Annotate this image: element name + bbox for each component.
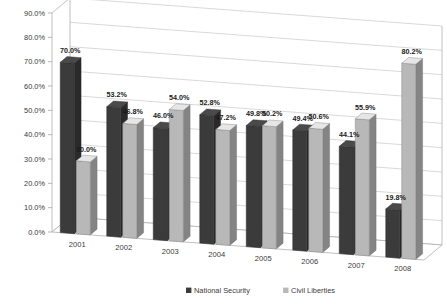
bar-front-face	[309, 128, 323, 252]
y-axis-tick-label: 80.0%	[24, 33, 45, 42]
bar-front-face	[216, 129, 230, 245]
bar-front-face	[386, 209, 400, 258]
chart-container: 0.0%10.0%20.0%30.0%40.0%50.0%60.0%70.0%8…	[0, 0, 447, 306]
bar-side-face	[230, 125, 237, 246]
data-label: 47.2%	[216, 113, 237, 122]
category-label-2002: 2002	[115, 243, 132, 252]
data-label: 52.8%	[200, 98, 221, 107]
category-label-2005: 2005	[255, 254, 272, 263]
category-label-2007: 2007	[348, 261, 365, 270]
bar-2003-civil-liberties	[169, 104, 190, 242]
legend-label-civil-liberties: Civil Liberties	[291, 286, 335, 295]
data-label: 53.2%	[107, 90, 128, 99]
y-axis-tick-label: 60.0%	[24, 82, 45, 91]
bar-side-face	[90, 156, 97, 235]
bar-front-face	[355, 119, 369, 256]
data-label: 80.2%	[402, 47, 423, 56]
data-label: 50.6%	[309, 112, 330, 121]
bar-2006-civil-liberties	[309, 122, 330, 252]
bar-side-face	[369, 114, 376, 256]
data-label: 46.8%	[123, 107, 144, 116]
bar-side-face	[137, 119, 144, 239]
bar-chart-3d: 0.0%10.0%20.0%30.0%40.0%50.0%60.0%70.0%8…	[0, 0, 447, 306]
data-label: 55.9%	[355, 103, 376, 112]
bar-front-face	[107, 107, 121, 238]
category-label-2003: 2003	[162, 247, 179, 256]
category-label-2004: 2004	[208, 250, 225, 259]
bar-front-face	[169, 109, 183, 241]
bar-front-face	[200, 115, 214, 245]
y-axis-tick-label: 40.0%	[24, 130, 45, 139]
data-label: 70.0%	[60, 46, 81, 55]
legend-label-national-security: National Security	[194, 286, 250, 295]
bar-side-face	[183, 105, 190, 242]
bar-front-face	[262, 126, 276, 249]
y-axis-tick-label: 10.0%	[24, 203, 45, 212]
bar-2002-civil-liberties	[123, 118, 144, 239]
y-axis-tick-label: 30.0%	[24, 155, 45, 164]
data-label: 44.1%	[339, 130, 360, 139]
data-label: 46.0%	[153, 111, 174, 120]
bar-2001-civil-liberties	[76, 155, 97, 235]
y-axis-tick-label: 50.0%	[24, 106, 45, 115]
bar-side-face	[416, 59, 423, 260]
bar-2008-civil-liberties	[402, 57, 423, 259]
bar-side-face	[323, 124, 330, 253]
data-label: 30.0%	[76, 145, 97, 154]
legend-swatch-civil-liberties	[283, 288, 288, 293]
bar-front-face	[60, 62, 74, 233]
y-axis-tick-label: 90.0%	[24, 9, 45, 18]
category-label-2006: 2006	[301, 257, 318, 266]
bar-front-face	[76, 161, 90, 235]
category-label-2001: 2001	[69, 240, 86, 249]
bar-front-face	[339, 146, 353, 254]
bar-front-face	[123, 123, 137, 238]
bar-front-face	[293, 130, 307, 251]
y-axis-tick-label: 0.0%	[28, 228, 45, 237]
data-label: 19.8%	[386, 193, 407, 202]
bar-2005-civil-liberties	[262, 120, 283, 249]
category-label-2008: 2008	[394, 264, 411, 273]
bar-front-face	[153, 128, 167, 241]
legend-swatch-national-security	[186, 288, 191, 293]
bar-2004-civil-liberties	[216, 124, 237, 246]
y-axis-tick-label: 70.0%	[24, 57, 45, 66]
bar-front-face	[246, 125, 260, 247]
bar-side-face	[276, 121, 283, 249]
y-axis-tick-label: 20.0%	[24, 179, 45, 188]
data-label: 54.0%	[169, 93, 190, 102]
data-label: 50.2%	[262, 109, 283, 118]
bar-front-face	[402, 63, 416, 259]
